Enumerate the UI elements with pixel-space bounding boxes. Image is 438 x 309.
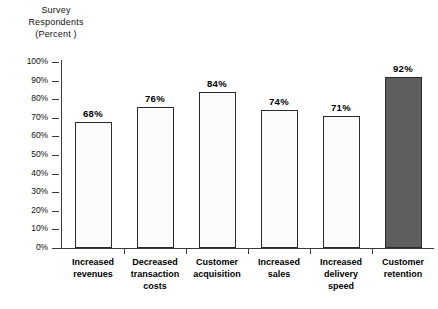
y-axis-tick-mark <box>52 155 59 156</box>
category-label-line: acquisition <box>186 268 248 280</box>
y-axis-tick-mark <box>52 192 59 193</box>
y-axis-tick-mark <box>52 62 59 63</box>
bar <box>199 92 236 248</box>
plot-area <box>62 62 434 248</box>
y-axis-tick-label: 70% <box>31 112 48 122</box>
y-axis-tick-mark <box>52 174 59 175</box>
y-axis-tick-mark <box>52 81 59 82</box>
category-label-line: Customer <box>372 256 434 268</box>
bar <box>385 77 422 248</box>
category-label-line: retention <box>372 268 434 280</box>
y-axis-tick-mark <box>52 118 59 119</box>
y-axis-title-line-2: Respondents <box>8 16 104 28</box>
x-axis-line <box>52 248 434 249</box>
x-axis-tick-mark <box>124 249 125 254</box>
x-axis-tick-mark <box>310 249 311 254</box>
y-axis-title-line-3: (Percent ) <box>8 28 104 40</box>
y-axis-tick-label: 60% <box>31 130 48 140</box>
category-label-line: costs <box>124 280 186 292</box>
bar-value-label: 92% <box>377 63 429 74</box>
category-label-line: Decreased <box>124 256 186 268</box>
y-axis-tick-mark <box>52 99 59 100</box>
category-label-line: transaction <box>124 268 186 280</box>
category-label-line: Increased <box>248 256 310 268</box>
bar <box>261 110 298 248</box>
x-axis-tick-mark <box>372 249 373 254</box>
category-label-line: Increased <box>310 256 372 268</box>
bar <box>323 116 360 248</box>
bar <box>137 107 174 248</box>
category-label: Increasedrevenues <box>62 256 124 280</box>
y-axis-tick-label: 10% <box>31 223 48 233</box>
x-axis-tick-mark <box>248 249 249 254</box>
y-axis-tick-mark <box>52 248 59 249</box>
category-label-line: Increased <box>62 256 124 268</box>
bar-chart: Survey Respondents (Percent ) 0%10%20%30… <box>0 0 438 309</box>
category-label: Decreasedtransactioncosts <box>124 256 186 292</box>
bar-value-label: 84% <box>191 78 243 89</box>
bar-value-label: 76% <box>129 93 181 104</box>
category-label: Customeracquisition <box>186 256 248 280</box>
y-axis-tick-label: 50% <box>31 149 48 159</box>
category-label-line: speed <box>310 280 372 292</box>
bar-value-label: 74% <box>253 96 305 107</box>
x-axis-tick-mark <box>186 249 187 254</box>
y-axis-tick-mark <box>52 211 59 212</box>
category-label-line: delivery <box>310 268 372 280</box>
y-axis-tick-label: 90% <box>31 75 48 85</box>
category-label: Customerretention <box>372 256 434 280</box>
bar <box>75 122 112 248</box>
y-axis-tick-label: 80% <box>31 93 48 103</box>
category-label: Increasedsales <box>248 256 310 280</box>
y-axis-tick-mark <box>52 136 59 137</box>
y-axis-title: Survey Respondents (Percent ) <box>8 4 104 40</box>
y-axis-tick-label: 30% <box>31 186 48 196</box>
y-axis-tick-label: 40% <box>31 168 48 178</box>
category-label-line: revenues <box>62 268 124 280</box>
bar-value-label: 68% <box>67 108 119 119</box>
y-axis-tick-mark <box>52 229 59 230</box>
bar-value-label: 71% <box>315 102 367 113</box>
y-axis-title-line-1: Survey <box>8 4 104 16</box>
y-axis-tick-label: 100% <box>27 56 48 66</box>
category-label-line: Customer <box>186 256 248 268</box>
category-label: Increaseddeliveryspeed <box>310 256 372 292</box>
y-axis-tick-label: 0% <box>36 242 48 252</box>
category-label-line: sales <box>248 268 310 280</box>
y-axis-tick-label: 20% <box>31 205 48 215</box>
